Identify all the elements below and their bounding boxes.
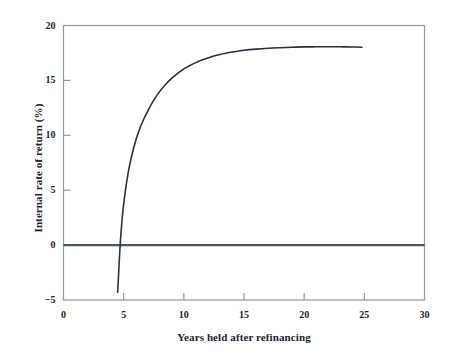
x-tick-label: 30 bbox=[410, 310, 440, 320]
y-tick-label: 20 bbox=[26, 21, 56, 31]
irr-curve bbox=[118, 47, 362, 293]
y-tick-label: −5 bbox=[26, 295, 56, 305]
x-axis-title: Years held after refinancing bbox=[63, 331, 425, 343]
chart-container: 20151050−5 051015202530 Internal rate of… bbox=[0, 0, 450, 358]
x-tick-label: 25 bbox=[349, 310, 379, 320]
plot-frame bbox=[64, 26, 425, 301]
x-tick-label: 5 bbox=[109, 310, 139, 320]
y-axis-title: Internal rate of return (%) bbox=[32, 48, 44, 288]
chart-canvas bbox=[0, 0, 450, 358]
x-axis-ticks bbox=[124, 293, 365, 300]
x-tick-label: 20 bbox=[289, 310, 319, 320]
x-tick-label: 15 bbox=[229, 310, 259, 320]
x-tick-label: 10 bbox=[169, 310, 199, 320]
x-tick-label: 0 bbox=[49, 310, 79, 320]
y-axis-ticks bbox=[64, 80, 71, 245]
